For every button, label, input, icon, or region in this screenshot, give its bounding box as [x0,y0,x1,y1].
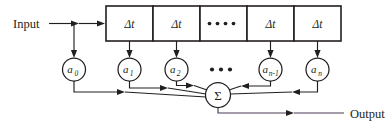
delay-box-3-label: Δt [265,18,277,30]
fir-filter-diagram: Δt Δt Δt Δt [0,0,389,125]
delay-box-1-label: Δt [124,18,136,30]
coefficient-an-base: a [311,63,317,75]
tap-wires-group [126,41,320,58]
coefficient-a2-sub: 2 [177,69,181,78]
sum-wire-a2-seg [177,81,187,86]
tap-arrowhead-an [314,50,320,58]
coefficient-ellipsis-dots [210,67,232,71]
input-arrowhead-1 [71,20,79,26]
sum-wire-an-tail [230,92,292,94]
sum-wire-a1-seg [130,81,161,88]
output-label: Output [350,107,385,121]
coefficient-circles-group [63,58,330,81]
sum-arrowhead-an1 [241,83,249,89]
coefficient-a0-sub: 0 [74,69,78,78]
tap-arrowhead-an1 [267,50,273,58]
coefficient-an1-base: a [262,63,268,75]
coefficient-labels-group: a 0 a 1 a 2 a n-1 a n [67,63,322,78]
sum-wire-an1-tail [229,86,241,90]
coefficient-a1-sub: 1 [130,69,134,78]
coefficient-a2-base: a [170,63,176,75]
output-wire-segment-1 [218,108,286,114]
sum-wire-a0-seg [74,81,117,92]
sum-wire-a2-tail [194,86,207,91]
delay-box-2-label: Δt [171,18,183,30]
delay-line-row [106,6,341,41]
sum-arrowhead-a2 [186,82,194,88]
coefficient-a1-base: a [123,63,129,75]
input-arrowhead-2 [97,20,105,26]
tap-arrowhead-a1 [126,50,132,58]
output-wire-group [218,108,344,117]
summing-wires-left [74,81,207,97]
sum-wire-a1-tail [168,88,206,94]
sum-wire-an1-seg [249,81,271,86]
input-wire-group [49,20,105,58]
coefficient-a0-base: a [67,63,73,75]
sum-arrowhead-an [292,89,300,95]
sum-arrowhead-a1 [160,85,168,91]
input-branch-arrowhead [71,50,77,58]
delay-box-ellipsis [200,6,247,41]
output-arrowhead [286,110,294,116]
sum-wire-an-seg [300,81,318,92]
sum-wire-a0-tail [125,92,206,97]
summation-label: Σ [214,88,222,103]
coefficient-an-sub: n [318,69,322,78]
tap-arrowhead-a2 [173,50,179,58]
delay-box-4-label: Δt [312,18,324,30]
coefficient-an1-sub: n-1 [269,69,279,78]
input-label: Input [13,17,40,31]
figure-container: Δt Δt Δt Δt [0,0,389,125]
summing-wires-right [229,81,318,95]
sum-arrowhead-a0 [117,89,125,95]
